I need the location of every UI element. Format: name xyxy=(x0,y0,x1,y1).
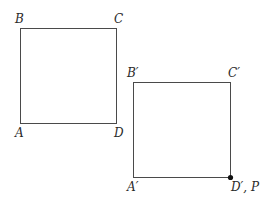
label-b: B xyxy=(14,12,24,26)
square-abcd xyxy=(21,29,117,124)
label-c: C xyxy=(114,12,123,26)
point-p-dot xyxy=(228,175,233,180)
label-d: D xyxy=(113,126,124,140)
square-a-prime-b-prime-c-prime-d-prime xyxy=(134,83,231,178)
label-b-prime: B′ xyxy=(126,66,139,80)
label-a: A xyxy=(14,126,24,140)
label-a-prime: A′ xyxy=(126,180,139,194)
translation-diagram: B C A D B′ C′ A′ D′, P xyxy=(0,0,266,206)
label-d-prime-p: D′, P xyxy=(230,180,260,194)
label-c-prime: C′ xyxy=(228,66,240,80)
